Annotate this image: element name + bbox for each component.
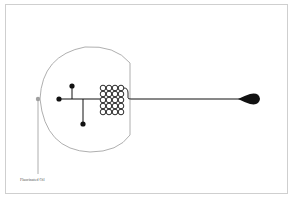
chip-diagram bbox=[0, 0, 291, 198]
inlet-port-2 bbox=[69, 83, 74, 88]
outlet-reservoir bbox=[238, 94, 260, 105]
inlet-port-1 bbox=[56, 96, 61, 101]
inlet-port-3 bbox=[80, 121, 85, 126]
serpentine-mixer bbox=[100, 85, 131, 115]
oil-label: Fluorinated Oil bbox=[20, 177, 45, 182]
oil-inlet-port bbox=[36, 97, 40, 101]
